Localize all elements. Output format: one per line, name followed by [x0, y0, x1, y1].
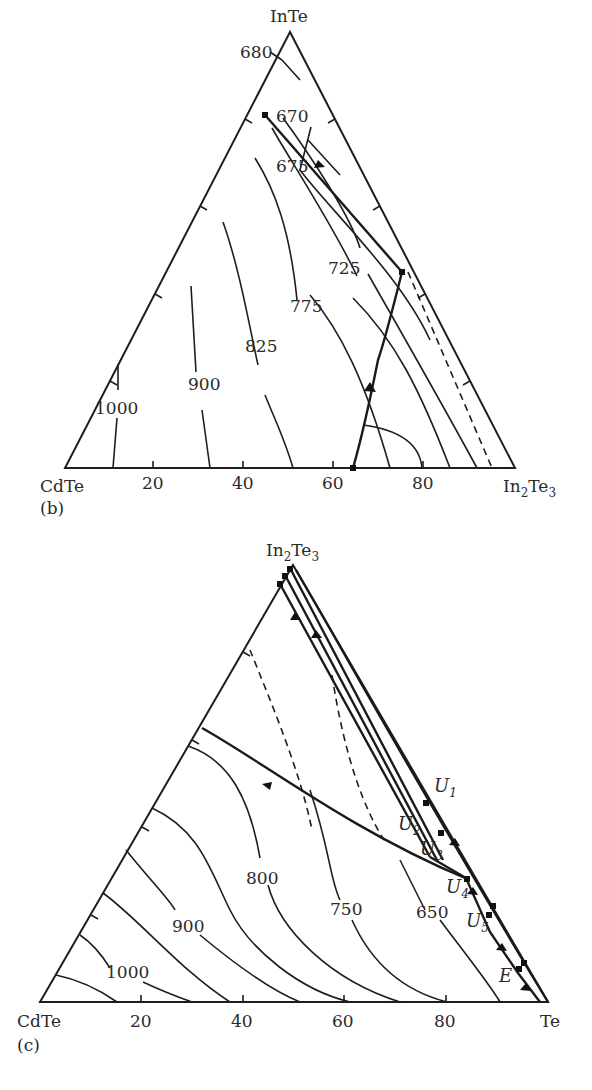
axis-tick-label: 20 [130, 1011, 152, 1031]
diagram-c-dashed-line [250, 650, 312, 830]
isotherm-label: 775 [290, 296, 322, 316]
vertex-label-in2te3: In2Te3 [266, 540, 319, 564]
isotherm-label: 800 [246, 868, 278, 888]
isotherm-label: 650 [416, 902, 448, 922]
diagram-b-dashed-line [408, 272, 492, 468]
axis-tick-label: 60 [332, 1011, 354, 1031]
diagram-c-triangle [40, 565, 548, 1002]
isotherm-label: 675 [276, 156, 308, 176]
label-u5: U5 [466, 910, 489, 935]
label-e: E [498, 965, 512, 986]
axis-tick-label: 40 [232, 473, 254, 493]
point-u5 [486, 912, 492, 918]
arrow-icon [290, 612, 301, 620]
point-u1 [423, 800, 429, 806]
axis-tick-label: 80 [412, 473, 434, 493]
axis-tick-label: 80 [434, 1011, 456, 1031]
label-u2: U2 [398, 813, 421, 838]
isotherm-label: 680 [240, 42, 272, 62]
diagram-b-point [262, 112, 268, 118]
point-e [516, 966, 522, 972]
axis-tick-label: 60 [322, 473, 344, 493]
label-u1: U1 [434, 775, 457, 800]
point-u2 [438, 830, 444, 836]
arrow-icon [311, 630, 322, 638]
isotherm-label: 900 [172, 916, 204, 936]
diagram-b-point [399, 269, 405, 275]
vertex-label-te: Te [540, 1011, 560, 1031]
vertex-label-inte: InTe [270, 6, 308, 26]
diagram-b: InTe CdTe In2Te3 (b) 20 40 60 80 680 670… [40, 6, 556, 518]
phase-diagrams: InTe CdTe In2Te3 (b) 20 40 60 80 680 670… [0, 0, 592, 1090]
diagram-c-point [282, 573, 288, 579]
diagram-b-base-ticks [153, 461, 423, 468]
axis-tick-label: 20 [142, 473, 164, 493]
diagram-b-left-ticks [110, 119, 252, 385]
isotherm-label: 725 [328, 258, 360, 278]
isotherm-label: 1000 [95, 398, 138, 418]
isotherm-label: 670 [276, 106, 308, 126]
panel-label-c: (c) [17, 1035, 40, 1055]
isotherm-label: 900 [188, 374, 220, 394]
axis-tick-label: 40 [231, 1011, 253, 1031]
panel-label-b: (b) [40, 498, 64, 518]
diagram-c-point [277, 581, 283, 587]
diagram-c-left-ticks [91, 652, 250, 919]
arrow-icon [262, 782, 272, 790]
vertex-label-cdte: CdTe [17, 1011, 61, 1031]
isotherm-label: 825 [245, 336, 277, 356]
point-u5b [490, 903, 496, 909]
isotherm-label: 1000 [106, 962, 149, 982]
vertex-label-in2te3: In2Te3 [503, 476, 556, 500]
point-eb [521, 960, 527, 966]
isotherm-label: 750 [330, 899, 362, 919]
diagram-c: In2Te3 CdTe Te (c) 20 40 60 80 800 900 1… [17, 540, 560, 1055]
point-u4 [464, 876, 470, 882]
vertex-label-cdte: CdTe [40, 476, 84, 496]
diagram-c-point [287, 566, 293, 572]
diagram-b-right-ticks [328, 119, 470, 385]
diagram-b-point [350, 465, 356, 471]
